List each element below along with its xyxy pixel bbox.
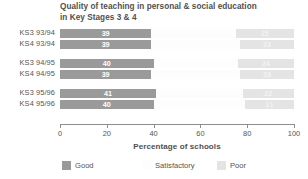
legend-swatch bbox=[142, 161, 151, 170]
bar-segment-good: 39 bbox=[60, 70, 151, 79]
bar-segment-good: 40 bbox=[60, 100, 154, 109]
bar-row: KS3 93/943925 bbox=[60, 29, 294, 38]
bar-value-label: 40 bbox=[60, 59, 154, 68]
bar-row: KS3 95/964122 bbox=[60, 89, 294, 98]
bar-value-label: 39 bbox=[60, 70, 151, 79]
bar-segment-good: 41 bbox=[60, 89, 156, 98]
x-axis-tick bbox=[107, 124, 108, 128]
chart-title: Quality of teaching in personal & social… bbox=[60, 2, 300, 23]
legend-label: Good bbox=[75, 161, 94, 170]
bar-segment-poor: 24 bbox=[238, 59, 294, 68]
legend-swatch bbox=[217, 161, 226, 170]
legend-label: Poor bbox=[230, 161, 246, 170]
x-axis-tick-label: 80 bbox=[232, 129, 262, 138]
bar-row: KS3 94/954024 bbox=[60, 59, 294, 68]
x-axis-tick-label: 60 bbox=[185, 129, 215, 138]
x-axis-tick-label: 20 bbox=[92, 129, 122, 138]
bar-segment-sat bbox=[151, 40, 240, 49]
legend-label: Satisfactory bbox=[155, 161, 195, 170]
bar-value-label: 23 bbox=[240, 70, 294, 79]
x-axis-tick bbox=[200, 124, 201, 128]
bar-row-label: KS3 93/94 bbox=[20, 28, 55, 37]
bar-segment-sat bbox=[154, 100, 245, 109]
bar-segment-poor: 23 bbox=[240, 40, 294, 49]
bar-segment-poor: 21 bbox=[245, 100, 294, 109]
x-axis-tick bbox=[60, 124, 61, 128]
bar-row: KS4 95/964021 bbox=[60, 100, 294, 109]
x-axis-tick-label: 100 bbox=[279, 129, 308, 138]
bar-group: KS3 93/943925KS4 93/943923 bbox=[60, 29, 294, 49]
bar-value-label: 21 bbox=[245, 100, 294, 109]
bar-value-label: 25 bbox=[236, 29, 295, 38]
bar-segment-poor: 22 bbox=[243, 89, 294, 98]
bar-segment-good: 40 bbox=[60, 59, 154, 68]
bar-segment-good: 39 bbox=[60, 29, 151, 38]
bar-segment-sat bbox=[156, 89, 243, 98]
bar-row-label: KS4 95/96 bbox=[20, 99, 55, 108]
bar-segment-poor: 23 bbox=[240, 70, 294, 79]
legend-swatch bbox=[62, 161, 71, 170]
chart-title-line-1: Quality of teaching in personal & social… bbox=[60, 2, 300, 13]
x-axis-tick bbox=[247, 124, 248, 128]
bar-value-label: 22 bbox=[243, 89, 294, 98]
bar-row-label: KS4 94/95 bbox=[20, 69, 55, 78]
x-axis-title: Percentage of schools bbox=[60, 142, 294, 151]
x-axis-line bbox=[60, 124, 294, 125]
bar-segment-good: 39 bbox=[60, 40, 151, 49]
chart-title-line-2: in Key Stages 3 & 4 bbox=[60, 13, 300, 24]
bar-value-label: 24 bbox=[238, 59, 294, 68]
x-axis-tick bbox=[154, 124, 155, 128]
chart-container: Quality of teaching in personal & social… bbox=[0, 0, 308, 179]
bar-segment-poor: 25 bbox=[236, 29, 295, 38]
chart-legend: GoodSatisfactoryPoor bbox=[62, 160, 292, 174]
bar-segment-sat bbox=[154, 59, 238, 68]
x-axis-tick bbox=[294, 124, 295, 128]
bar-row: KS4 93/943923 bbox=[60, 40, 294, 49]
x-axis-tick-label: 0 bbox=[45, 129, 75, 138]
bar-value-label: 39 bbox=[60, 29, 151, 38]
bar-group: KS3 94/954024KS4 94/953923 bbox=[60, 59, 294, 79]
bar-row: KS4 94/953923 bbox=[60, 70, 294, 79]
bar-row-label: KS3 95/96 bbox=[20, 88, 55, 97]
plot-area: KS3 93/943925KS4 93/943923KS3 94/954024K… bbox=[60, 28, 294, 124]
bar-value-label: 40 bbox=[60, 100, 154, 109]
x-axis-tick-label: 40 bbox=[139, 129, 169, 138]
bar-segment-sat bbox=[151, 29, 235, 38]
bar-row-label: KS3 94/95 bbox=[20, 58, 55, 67]
bar-group: KS3 95/964122KS4 95/964021 bbox=[60, 89, 294, 109]
bar-value-label: 23 bbox=[240, 40, 294, 49]
bar-segment-sat bbox=[151, 70, 240, 79]
bar-value-label: 39 bbox=[60, 40, 151, 49]
bar-row-label: KS4 93/94 bbox=[20, 39, 55, 48]
bar-value-label: 41 bbox=[60, 89, 156, 98]
